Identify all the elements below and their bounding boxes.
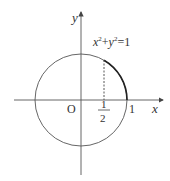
tick-one-label: 1	[129, 102, 135, 116]
x-axis-label: x	[151, 101, 158, 116]
circle-equation: x2+y2=1	[92, 35, 130, 49]
half-denominator: 2	[100, 112, 106, 124]
y-axis-label: y	[70, 10, 78, 25]
highlighted-arc	[104, 60, 127, 100]
origin-label: O	[67, 102, 76, 116]
unit-circle-diagram: y x O 1 1 2 x2+y2=1	[0, 0, 170, 181]
half-numerator: 1	[101, 98, 107, 110]
